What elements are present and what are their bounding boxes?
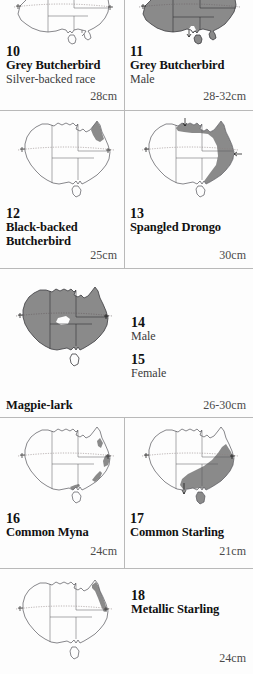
entry-17-size: 21cm	[130, 545, 246, 558]
row-divider-3	[0, 417, 253, 418]
entry-17-name: Common Starling	[130, 526, 248, 540]
entry-11-caption: 11 Grey Butcherbird Male	[130, 44, 248, 86]
australia-range-map-11	[136, 0, 244, 48]
entry-15-number: 15	[131, 352, 241, 367]
entry-13-name: Spangled Drongo	[130, 221, 248, 235]
row-divider-4	[0, 568, 253, 569]
entry-13-size: 30cm	[130, 249, 246, 262]
entry-11-size: 28-32cm	[130, 90, 246, 103]
row-divider-1	[0, 110, 253, 111]
entry-10-number: 10	[6, 44, 116, 59]
entry-12-caption: 12 Black-backed Butcherbird	[6, 206, 118, 248]
field-guide-plate: 10 Grey Butcherbird Silver-backed race 2…	[0, 0, 253, 674]
australia-range-map-magpie-lark	[12, 278, 118, 386]
entry-15-subtitle: Female	[131, 367, 241, 380]
entry-10-caption: 10 Grey Butcherbird Silver-backed race	[6, 44, 116, 86]
australia-range-map-12	[14, 118, 118, 210]
entry-15-caption: 15 Female	[131, 352, 241, 380]
entry-18-caption: 18 Metallic Starling	[131, 588, 247, 617]
column-divider-row1	[124, 0, 125, 110]
entry-18-number: 18	[131, 588, 247, 603]
entry-10-name: Grey Butcherbird	[6, 59, 116, 73]
entry-16-number: 16	[6, 511, 118, 526]
magpie-lark-label: Magpie-lark	[6, 398, 126, 412]
entry-13-caption: 13 Spangled Drongo	[130, 206, 248, 235]
column-divider-row4	[124, 418, 125, 568]
entry-10-size: 28cm	[6, 90, 117, 103]
magpie-lark-name: Magpie-lark	[6, 398, 126, 412]
entry-16-name: Common Myna	[6, 526, 118, 540]
entry-11-subtitle: Male	[130, 73, 248, 86]
entry-12-size: 25cm	[6, 249, 117, 262]
entry-14-caption: 14 Male	[131, 315, 241, 343]
entry-14-number: 14	[131, 315, 241, 330]
entry-18-size: 24cm	[130, 652, 246, 665]
entry-16-size: 24cm	[6, 545, 117, 558]
australia-range-map-16	[14, 424, 118, 516]
entry-18-name: Metallic Starling	[131, 603, 247, 617]
australia-range-map-17	[138, 424, 244, 516]
magpie-lark-size: 26-30cm	[130, 399, 246, 412]
entry-17-number: 17	[130, 511, 248, 526]
entry-13-number: 13	[130, 206, 248, 221]
entry-12-name-line2: Butcherbird	[6, 235, 118, 249]
row-divider-2	[0, 268, 253, 269]
entry-12-name-line1: Black-backed	[6, 221, 118, 235]
entry-14-subtitle: Male	[131, 330, 241, 343]
column-divider-row2	[124, 111, 125, 268]
entry-16-caption: 16 Common Myna	[6, 511, 118, 540]
australia-range-map-18	[12, 576, 118, 674]
entry-11-name: Grey Butcherbird	[130, 59, 248, 73]
entry-10-subtitle: Silver-backed race	[6, 73, 116, 86]
australia-range-map-13	[138, 118, 244, 210]
australia-range-map-10	[12, 0, 116, 48]
entry-12-number: 12	[6, 206, 118, 221]
entry-11-number: 11	[130, 44, 248, 59]
entry-17-caption: 17 Common Starling	[130, 511, 248, 540]
